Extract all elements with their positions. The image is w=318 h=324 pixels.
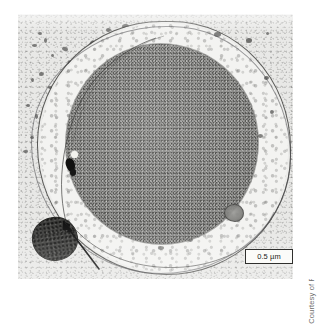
dark-organelle-texture (29, 214, 81, 264)
top-margin (0, 0, 318, 9)
film-top-edge-line (18, 14, 293, 16)
scale-bar-label: 0.5 µm (257, 253, 281, 261)
cytoplasmic-organelle (224, 204, 244, 222)
bright-vesicle (71, 151, 78, 158)
scale-bar: 0.5 µm (245, 249, 293, 264)
credit-line: Courtesy of Rachel Reinhardt (304, 127, 318, 277)
cytoplasm-granule (270, 110, 274, 114)
left-margin (0, 0, 18, 279)
credit-text: Courtesy of Rachel Reinhardt (307, 221, 316, 324)
dark-organelle (29, 214, 81, 264)
micrograph-plate (18, 14, 293, 279)
